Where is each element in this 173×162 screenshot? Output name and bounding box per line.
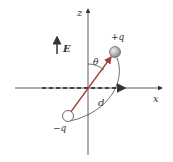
angle-label: θ [93, 57, 99, 67]
positive-charge-label: +q [111, 32, 125, 42]
positive-charge [110, 47, 121, 58]
negative-charge [63, 111, 74, 122]
negative-charge-label: −q [53, 123, 67, 133]
z-axis-label: z [76, 7, 83, 18]
distance-arc [70, 58, 119, 121]
dipole-moment-arrow [70, 57, 111, 113]
field-label: E [62, 43, 71, 54]
distance-label: d [98, 97, 104, 108]
x-axis-label: x [153, 93, 159, 104]
dipole-diagram: z x E θ d +q −q [0, 0, 173, 162]
